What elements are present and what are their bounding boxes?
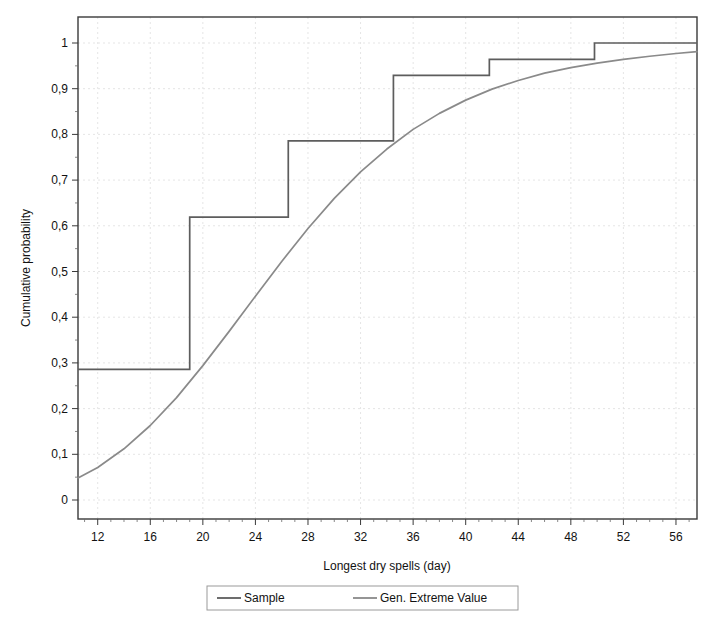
x-tick-label: 52 bbox=[617, 530, 631, 544]
x-tick-label: 32 bbox=[354, 530, 368, 544]
legend-label-sample: Sample bbox=[244, 591, 285, 605]
y-tick-label: 0,5 bbox=[51, 265, 68, 279]
y-tick-label: 0,7 bbox=[51, 173, 68, 187]
y-tick-label: 0,8 bbox=[51, 127, 68, 141]
x-tick-label: 36 bbox=[406, 530, 420, 544]
y-tick-label: 0,4 bbox=[51, 310, 68, 324]
y-tick-label: 0,2 bbox=[51, 402, 68, 416]
x-tick-label: 56 bbox=[669, 530, 683, 544]
y-tick-label: 0,3 bbox=[51, 356, 68, 370]
x-tick-label: 48 bbox=[564, 530, 578, 544]
x-tick-label: 16 bbox=[144, 530, 158, 544]
chart-legend: Sample Gen. Extreme Value bbox=[207, 586, 518, 610]
y-tick-label: 0,6 bbox=[51, 219, 68, 233]
x-tick-label: 40 bbox=[459, 530, 473, 544]
y-tick-label: 1 bbox=[61, 36, 68, 50]
x-tick-label: 44 bbox=[512, 530, 526, 544]
x-tick-label: 12 bbox=[91, 530, 105, 544]
y-tick-label: 0,1 bbox=[51, 447, 68, 461]
x-tick-label: 28 bbox=[301, 530, 315, 544]
y-tick-label: 0,9 bbox=[51, 82, 68, 96]
x-tick-label: 20 bbox=[196, 530, 210, 544]
y-tick-label: 0 bbox=[61, 493, 68, 507]
chart-container: 121620242832364044485256 00,10,20,30,40,… bbox=[0, 0, 725, 628]
y-axis-title: Cumulative probability bbox=[19, 209, 33, 327]
cdf-chart: 121620242832364044485256 00,10,20,30,40,… bbox=[0, 0, 725, 628]
x-tick-label: 24 bbox=[249, 530, 263, 544]
x-axis-title: Longest dry spells (day) bbox=[323, 559, 450, 573]
legend-label-gen-extreme-value: Gen. Extreme Value bbox=[380, 591, 487, 605]
